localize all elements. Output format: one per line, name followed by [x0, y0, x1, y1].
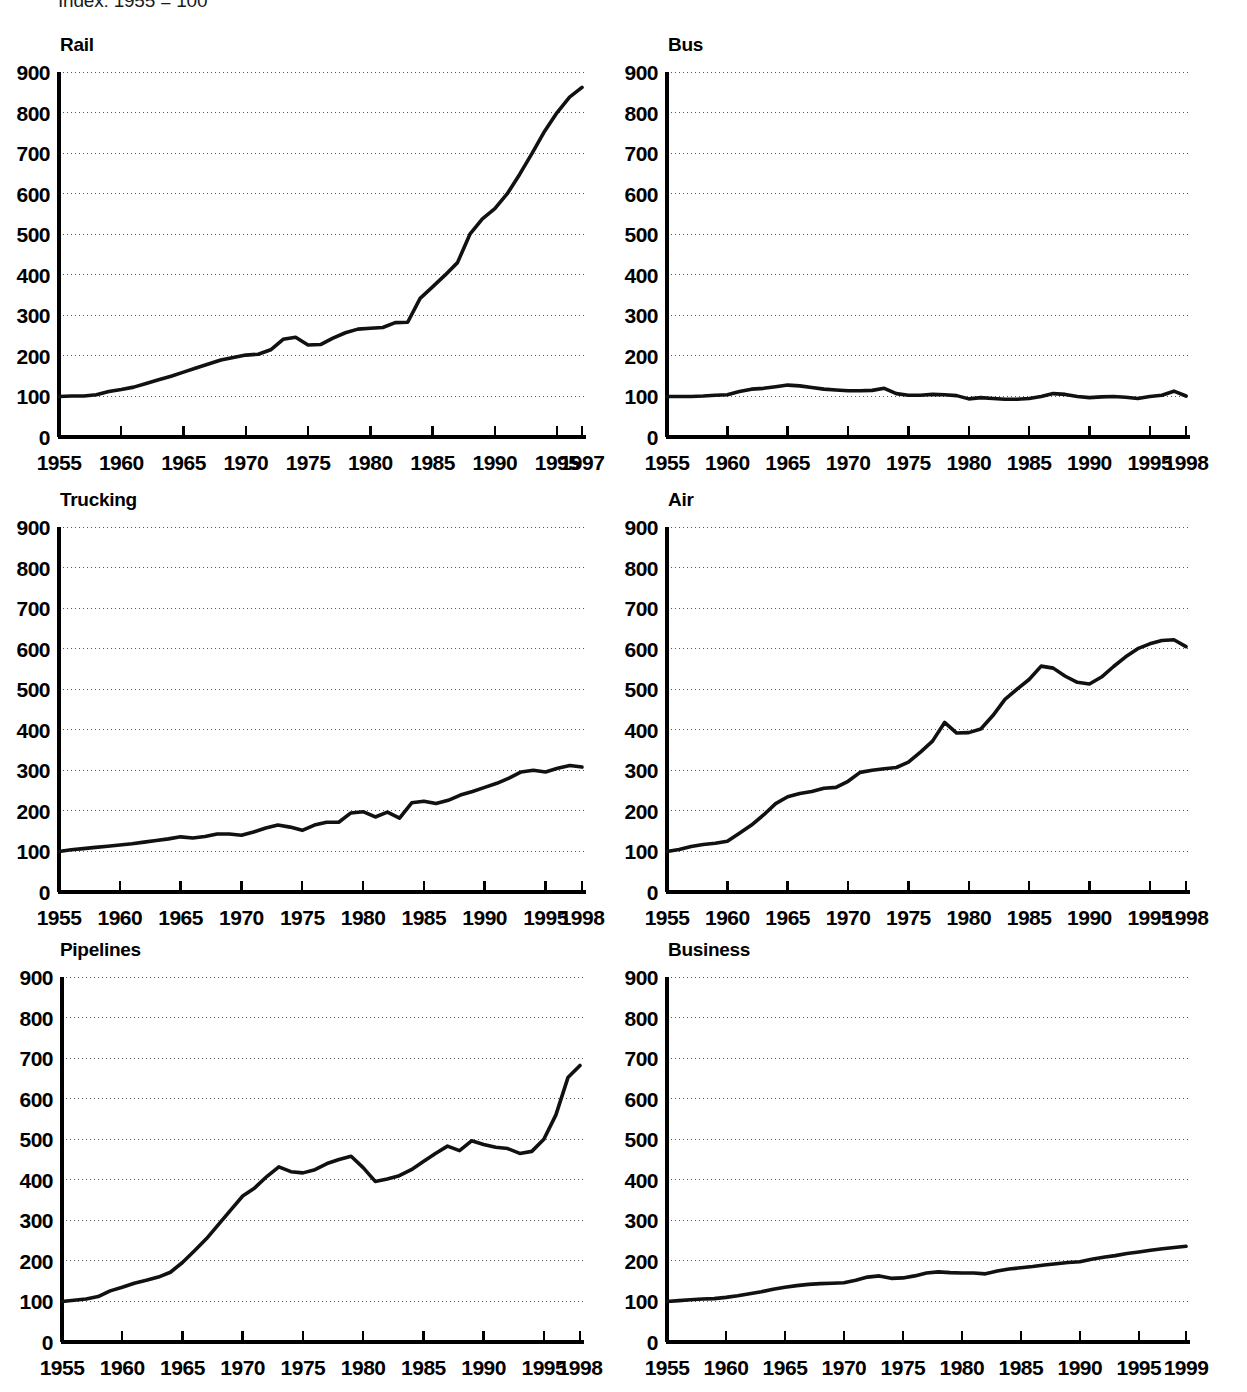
ytick-label: 0 [42, 1331, 53, 1354]
ytick-label: 200 [16, 345, 50, 368]
ytick-label: 800 [624, 1007, 658, 1030]
ytick-label: 0 [39, 881, 50, 904]
xtick-label: 1990 [461, 1356, 506, 1379]
xtick-label: 1960 [705, 451, 750, 474]
ytick-label: 500 [19, 1128, 53, 1151]
ytick-label: 100 [624, 385, 658, 408]
ytick-label: 200 [624, 345, 658, 368]
ytick-label: 500 [624, 1128, 658, 1151]
xtick-label: 1980 [348, 451, 393, 474]
xtick-label: 1960 [97, 906, 142, 929]
xtick-label: 1955 [37, 906, 83, 929]
ytick-label: 300 [19, 1209, 53, 1232]
xtick-label: 1970 [223, 451, 268, 474]
ytick-label: 400 [624, 264, 658, 287]
xtick-label: 1965 [160, 1356, 206, 1379]
ytick-label: 800 [19, 1007, 53, 1030]
chart-bus: 9008007006005004003002001000195519601965… [608, 30, 1247, 485]
chart-rail: 9008007006005004003002001000195519601965… [0, 30, 620, 485]
panel-bus: Bus 900800700600500400300200100019551960… [608, 30, 1247, 485]
ytick-label: 900 [624, 516, 658, 539]
xtick-label: 1970 [220, 1356, 265, 1379]
chart-pipelines: 9008007006005004003002001000195519601965… [0, 935, 620, 1392]
xtick-label: 1970 [826, 906, 871, 929]
ytick-label: 700 [16, 142, 50, 165]
ytick-label: 500 [624, 678, 658, 701]
xtick-label: 1980 [341, 1356, 386, 1379]
xtick-label: 1960 [100, 1356, 145, 1379]
xtick-label: 1995 [1116, 1356, 1162, 1379]
xtick-label: 1990 [1067, 906, 1112, 929]
series-line-bus [667, 385, 1186, 399]
xtick-label: 1980 [946, 451, 991, 474]
xtick-label: 1955 [645, 1356, 691, 1379]
ytick-label: 800 [624, 557, 658, 580]
index-note: Index: 1955 = 100 [58, 0, 207, 12]
ytick-label: 0 [647, 881, 658, 904]
xtick-label: 1998 [1164, 906, 1210, 929]
ytick-label: 600 [624, 638, 658, 661]
ytick-label: 700 [19, 1047, 53, 1070]
ytick-label: 800 [16, 102, 50, 125]
series-line-pipelines [62, 1065, 580, 1301]
ytick-label: 400 [624, 719, 658, 742]
xtick-label: 1985 [999, 1356, 1045, 1379]
panel-air: Air 900800700600500400300200100019551960… [608, 485, 1247, 940]
ytick-label: 600 [19, 1088, 53, 1111]
xtick-label: 1975 [280, 906, 326, 929]
xtick-label: 1960 [705, 906, 750, 929]
xtick-label: 1985 [1007, 451, 1053, 474]
series-line-air [667, 640, 1186, 852]
ytick-label: 900 [19, 966, 53, 989]
ytick-label: 300 [16, 304, 50, 327]
xtick-label: 1990 [1057, 1356, 1102, 1379]
xtick-label: 1975 [281, 1356, 327, 1379]
xtick-label: 1980 [946, 906, 991, 929]
xtick-label: 1960 [99, 451, 144, 474]
chart-business: 9008007006005004003002001000195519601965… [608, 935, 1247, 1392]
ytick-label: 300 [16, 759, 50, 782]
xtick-label: 1998 [560, 906, 606, 929]
xtick-label: 1975 [881, 1356, 927, 1379]
ytick-label: 600 [624, 183, 658, 206]
ytick-label: 200 [16, 800, 50, 823]
xtick-label: 1980 [341, 906, 386, 929]
ytick-label: 600 [16, 183, 50, 206]
ytick-label: 700 [624, 1047, 658, 1070]
ytick-label: 100 [624, 1290, 658, 1313]
ytick-label: 500 [16, 678, 50, 701]
xtick-label: 1965 [161, 451, 207, 474]
ytick-label: 300 [624, 304, 658, 327]
xtick-label: 1970 [826, 451, 871, 474]
panel-rail: Rail 90080070060050040030020010001955196… [0, 30, 620, 485]
ytick-label: 200 [19, 1250, 53, 1273]
xtick-label: 1975 [286, 451, 332, 474]
xtick-label: 1990 [1067, 451, 1112, 474]
panel-business: Business 9008007006005004003002001000195… [608, 935, 1247, 1392]
ytick-label: 900 [16, 516, 50, 539]
ytick-label: 100 [16, 385, 50, 408]
ytick-label: 900 [16, 61, 50, 84]
xtick-label: 1955 [40, 1356, 86, 1379]
figure-root: Index: 1955 = 100 Rail 90080070060050040… [0, 0, 1247, 1392]
ytick-label: 0 [647, 1331, 658, 1354]
xtick-label: 1990 [472, 451, 517, 474]
series-line-rail [59, 87, 582, 396]
xtick-label: 1985 [401, 1356, 447, 1379]
xtick-label: 1998 [558, 1356, 604, 1379]
ytick-label: 700 [16, 597, 50, 620]
panel-pipelines: Pipelines 900800700600500400300200100019… [0, 935, 620, 1392]
xtick-label: 1965 [765, 906, 811, 929]
ytick-label: 100 [624, 840, 658, 863]
ytick-label: 0 [647, 426, 658, 449]
ytick-label: 500 [624, 223, 658, 246]
panel-trucking: Trucking 9008007006005004003002001000195… [0, 485, 620, 940]
ytick-label: 800 [624, 102, 658, 125]
ytick-label: 700 [624, 597, 658, 620]
xtick-label: 1998 [1164, 451, 1210, 474]
xtick-label: 1970 [822, 1356, 867, 1379]
ytick-label: 700 [624, 142, 658, 165]
ytick-label: 500 [16, 223, 50, 246]
ytick-label: 800 [16, 557, 50, 580]
ytick-label: 900 [624, 61, 658, 84]
